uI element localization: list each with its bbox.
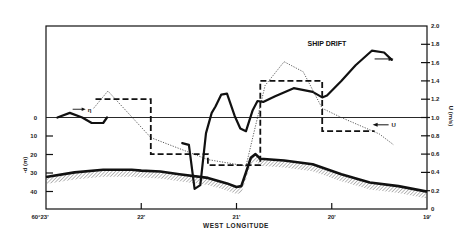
left-tick-label: 40 <box>30 189 37 195</box>
x-tick-label: 22' <box>137 214 146 220</box>
right-tick-label: 1.4 <box>431 78 440 84</box>
left-tick-label: 10 <box>30 133 37 139</box>
chart-figure: 60°23'22'21'20'19'01020304000.20.40.60.8… <box>0 0 470 243</box>
x-axis-title: WEST LONGITUDE <box>203 222 269 229</box>
bottom-hatch-area <box>46 154 427 199</box>
eta-label: η <box>88 107 92 113</box>
left-tick-label: 30 <box>30 170 37 176</box>
right-tick-label: 1.2 <box>431 96 440 102</box>
u-label: U <box>392 122 396 128</box>
left-tick-label: 0 <box>34 115 38 121</box>
right-tick-label: 0 <box>431 206 435 212</box>
series-layer <box>46 51 427 192</box>
right-tick-label: 2.0 <box>431 23 440 29</box>
left-tick-label: 20 <box>30 152 37 158</box>
right-tick-label: 0.6 <box>431 151 440 157</box>
left-axis-title: -d (m) <box>22 157 28 174</box>
right-tick-label: 0.4 <box>431 169 440 175</box>
x-tick-label: 60°23' <box>31 214 49 220</box>
right-tick-label: 1.6 <box>431 60 440 66</box>
bottom-hatching <box>46 154 427 199</box>
ship-drift-line <box>182 51 392 189</box>
x-tick-label: 19' <box>423 214 432 220</box>
right-tick-label: 0.8 <box>431 133 440 139</box>
x-tick-label: 20' <box>328 214 337 220</box>
eta-arrowhead-icon <box>82 107 86 111</box>
right-tick-label: 1.8 <box>431 41 440 47</box>
right-axis-title: U (m/s) <box>448 106 454 126</box>
right-tick-label: 1.0 <box>431 115 440 121</box>
dotted-model-line <box>94 62 394 166</box>
x-tick-label: 21' <box>232 214 241 220</box>
ship-drift-label: SHIP DRIFT <box>308 40 347 47</box>
right-tick-label: 0.2 <box>431 188 440 194</box>
